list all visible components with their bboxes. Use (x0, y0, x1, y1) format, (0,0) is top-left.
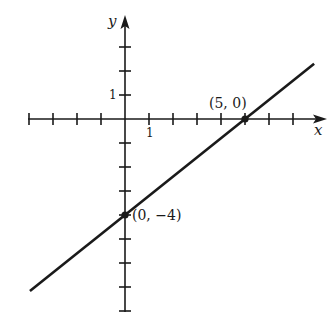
y-tick-label-1: 1 (109, 88, 117, 102)
data-point (241, 115, 248, 122)
axes (28, 24, 318, 312)
x-axis-label: x (314, 121, 323, 139)
data-point (121, 211, 128, 218)
data-line (30, 64, 314, 291)
y-axis-label: y (107, 12, 117, 30)
point-label-y-intercept: (0, −4) (132, 207, 181, 223)
x-tick-label-1: 1 (146, 126, 154, 140)
point-label-x-intercept: (5, 0) (209, 95, 247, 111)
chart: x y 1 1 (5, 0) (0, −4) (0, 0, 336, 329)
